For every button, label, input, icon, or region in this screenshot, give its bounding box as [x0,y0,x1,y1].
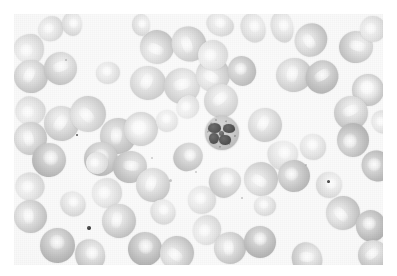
cell-highlight [75,103,98,127]
cell-highlight [248,171,271,191]
cell-highlight [254,112,273,135]
cell-highlight [298,252,317,263]
red-blood-cell [236,14,269,46]
cell-highlight [306,138,320,152]
cell-highlight [164,244,187,265]
cell-highlight [310,66,333,85]
cell-highlight [21,128,35,150]
red-blood-cell [203,14,237,40]
stain-debris [195,171,197,173]
cell-highlight [20,64,38,87]
cell-highlight [277,17,290,34]
platelet [76,134,78,136]
red-blood-cell [135,167,171,203]
platelet [87,226,91,230]
red-blood-cell [239,221,281,263]
cell-highlight [101,66,113,77]
cell-highlight [362,244,382,263]
stain-debris [65,59,67,61]
red-blood-cell [156,232,198,265]
stain-debris [241,197,243,199]
cell-highlight [251,230,270,249]
cell-highlight [161,113,173,125]
cell-highlight [143,172,159,195]
cell-highlight [110,124,122,147]
red-blood-cell [129,64,168,101]
cell-highlight [324,177,338,191]
cell-highlight [363,20,379,37]
cell-highlight [209,89,232,110]
cell-highlight [178,32,195,56]
cell-highlight [120,159,142,171]
cell-highlight [343,133,358,149]
red-blood-cell [287,238,327,265]
red-blood-cell [55,187,90,222]
cell-highlight [299,30,319,52]
cell-highlight [50,110,71,134]
stain-debris [151,157,153,159]
cell-highlight [47,233,67,253]
cell-highlight [202,46,220,64]
cell-highlight [181,146,199,164]
red-blood-cell [224,52,260,89]
cell-highlight [83,244,101,263]
red-blood-cell [367,106,383,138]
red-blood-cell [297,131,329,163]
cell-highlight [156,202,172,218]
cell-highlight [68,17,78,29]
cell-highlight [23,206,35,227]
nucleus-lobe-upper-right [223,124,235,133]
cell-highlight [217,171,236,190]
stain-debris [169,179,172,182]
cell-highlight [282,164,302,184]
cell-highlight [285,63,300,86]
micrograph-field [14,14,383,265]
cell-highlight [144,40,167,58]
cell-highlight [330,203,352,225]
cell-highlight [135,236,156,257]
red-blood-cell [336,122,369,157]
red-blood-cell [70,234,110,265]
cell-highlight [223,238,234,258]
cell-highlight [259,200,269,209]
red-blood-cell [246,106,283,143]
cell-highlight [212,16,227,30]
micrograph-page [0,0,397,276]
cell-highlight [179,99,193,114]
cell-highlight [170,76,194,93]
cell-highlight [138,19,147,30]
cell-highlight [345,38,368,53]
cell-highlight [95,183,113,202]
cell-highlight [197,222,213,239]
cell-highlight [374,114,383,129]
cell-highlight [20,179,36,195]
cell-highlight [88,155,102,169]
cell-highlight [128,117,149,138]
red-blood-cell [94,60,121,85]
red-blood-cell [168,137,208,176]
cell-highlight [40,147,61,168]
red-blood-cell [254,196,276,216]
cell-highlight [49,59,71,74]
cell-highlight [110,209,124,232]
platelet [327,180,330,183]
cell-highlight [66,194,82,210]
red-blood-cell [267,14,296,45]
cell-highlight [339,102,362,120]
cell-highlight [365,155,383,175]
cell-highlight [247,18,262,35]
cell-highlight [41,20,57,36]
red-blood-cell [288,17,333,63]
cell-highlight [192,190,209,207]
cell-highlight [361,215,378,232]
cell-highlight [232,61,248,78]
cell-highlight [359,80,374,95]
nucleus-lobe-lower-right [219,135,231,145]
cell-highlight [137,70,156,94]
red-blood-cell [299,54,345,100]
neutrophil-white-blood-cell [205,116,239,150]
stain-debris [305,164,307,166]
red-blood-cell [35,223,80,265]
cell-highlight [21,104,36,119]
cell-highlight [20,43,33,57]
